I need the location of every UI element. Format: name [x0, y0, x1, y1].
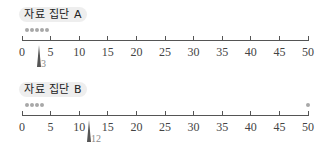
- axis-tick: [136, 111, 137, 116]
- axis-tick-label: 20: [126, 45, 146, 60]
- axis-tick-label: 50: [298, 120, 318, 135]
- axis-tick-label: 5: [41, 120, 61, 135]
- axis-tick: [79, 111, 80, 116]
- panel-group-b: 자료 집단 B 05101520253035404550 12: [0, 75, 326, 149]
- axis-tick-label: 45: [269, 120, 289, 135]
- axis-tick: [136, 36, 137, 41]
- axis-tick-label: 45: [269, 45, 289, 60]
- axis-tick: [222, 111, 223, 116]
- data-point-dot: [306, 103, 310, 107]
- data-point-dot: [25, 28, 29, 32]
- group-a-title: 자료 집단 A: [19, 7, 87, 22]
- axis-tick: [50, 111, 51, 116]
- axis-tick-label: 30: [184, 45, 204, 60]
- group-a-mean-label: 3: [41, 58, 46, 69]
- data-point-dot: [25, 103, 29, 107]
- axis-tick-label: 15: [98, 45, 118, 60]
- axis-tick: [107, 111, 108, 116]
- axis-tick: [308, 36, 309, 41]
- axis-tick-label: 35: [212, 120, 232, 135]
- axis-tick: [79, 36, 80, 41]
- axis-tick-label: 0: [12, 45, 32, 60]
- axis-tick-label: 0: [12, 120, 32, 135]
- axis-tick-label: 20: [126, 120, 146, 135]
- data-point-dot: [35, 103, 39, 107]
- axis-tick: [279, 111, 280, 116]
- data-point-dot: [40, 28, 44, 32]
- axis-tick-label: 25: [155, 120, 175, 135]
- axis-tick: [165, 111, 166, 116]
- group-b-mean-label: 12: [91, 133, 101, 144]
- axis-tick: [22, 111, 23, 116]
- data-point-dot: [40, 103, 44, 107]
- axis-tick: [193, 111, 194, 116]
- axis-tick-label: 50: [298, 45, 318, 60]
- axis-tick-label: 25: [155, 45, 175, 60]
- axis-tick: [308, 111, 309, 116]
- data-point-dot: [30, 103, 34, 107]
- axis-tick-label: 10: [69, 45, 89, 60]
- axis-tick-label: 40: [241, 120, 261, 135]
- data-point-dot: [30, 28, 34, 32]
- data-point-dot: [35, 28, 39, 32]
- axis-tick-label: 35: [212, 45, 232, 60]
- axis-tick: [222, 36, 223, 41]
- axis-tick: [50, 36, 51, 41]
- axis-tick-label: 40: [241, 45, 261, 60]
- axis-tick: [165, 36, 166, 41]
- panel-group-a: 자료 집단 A 05101520253035404550 3: [0, 0, 326, 74]
- axis-tick: [250, 36, 251, 41]
- axis-tick: [250, 111, 251, 116]
- axis-tick: [107, 36, 108, 41]
- group-b-title: 자료 집단 B: [19, 82, 87, 97]
- axis-tick: [22, 36, 23, 41]
- axis-tick: [193, 36, 194, 41]
- axis-tick-label: 30: [184, 120, 204, 135]
- data-point-dot: [45, 28, 49, 32]
- axis-tick: [279, 36, 280, 41]
